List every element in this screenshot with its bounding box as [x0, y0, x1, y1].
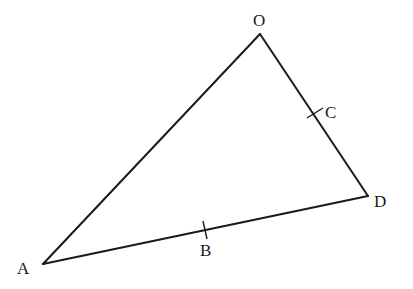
point-markers	[203, 108, 323, 239]
side-OD	[260, 34, 368, 196]
side-OA	[43, 34, 260, 264]
point-labels: O A D B C	[17, 11, 386, 278]
label-C: C	[325, 103, 336, 122]
label-O: O	[253, 11, 265, 30]
label-B: B	[200, 241, 211, 260]
triangle-diagram: O A D B C	[0, 0, 413, 289]
label-A: A	[17, 259, 30, 278]
label-D: D	[374, 192, 386, 211]
